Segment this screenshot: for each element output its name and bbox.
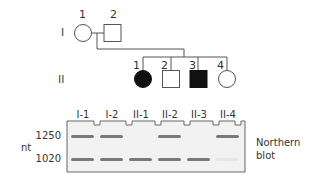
generation-label-I: I <box>61 26 64 39</box>
lane-label-I-2: I-2 <box>97 109 127 120</box>
member-number-II-3: 3 <box>189 60 196 71</box>
generation-label-II: II <box>58 73 65 86</box>
size-label-1020: 1020 <box>31 153 61 164</box>
lane-label-I-1: I-1 <box>68 109 98 120</box>
member-number-II-1: 1 <box>133 60 140 71</box>
male-unaffected-II-2 <box>163 71 180 88</box>
unit-label: nt <box>21 142 31 153</box>
member-number-I-1: 1 <box>79 9 86 20</box>
member-number-I-2: 2 <box>110 9 117 20</box>
female-unaffected-I-1 <box>75 25 92 42</box>
lane-label-II-1: II-1 <box>126 109 156 120</box>
lane-label-II-2: II-2 <box>155 109 185 120</box>
gel-outline <box>67 121 245 172</box>
female-affected-II-1 <box>135 71 152 88</box>
caption-line-1: Northern <box>256 137 300 148</box>
member-number-II-2: 2 <box>161 60 168 71</box>
male-unaffected-I-2 <box>104 25 121 42</box>
lane-label-II-4: II-4 <box>213 109 243 120</box>
caption-line-2: blot <box>256 150 275 161</box>
size-label-1250: 1250 <box>31 130 61 141</box>
male-affected-II-3 <box>190 71 207 88</box>
lane-label-II-3: II-3 <box>184 109 214 120</box>
female-unaffected-II-4 <box>219 71 236 88</box>
member-number-II-4: 4 <box>217 60 224 71</box>
